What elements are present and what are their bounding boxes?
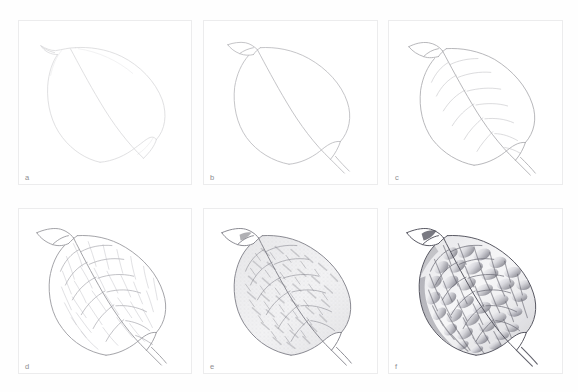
panel-c: c [388,20,563,185]
panel-f: f [388,208,563,374]
leaf-drawing-stage-b [204,21,377,184]
panel-label-b: b [210,174,214,182]
panel-label-a: a [25,174,29,182]
panel-a: a [18,20,192,185]
panel-label-c: c [395,174,399,182]
leaf-drawing-stage-e [204,209,377,373]
panel-b: b [203,20,378,185]
leaf-drawing-stage-d [19,209,191,373]
panel-e: e [203,208,378,374]
leaf-drawing-stage-c [389,21,562,184]
leaf-tutorial-sheet: a b [0,0,578,392]
panel-label-d: d [25,363,29,371]
leaf-drawing-stage-a [19,21,191,184]
leaf-drawing-stage-f [389,209,562,373]
panel-label-f: f [395,363,397,371]
panel-d: d [18,208,192,374]
panel-label-e: e [210,363,214,371]
